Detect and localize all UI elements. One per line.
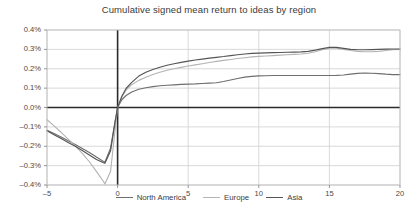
y-axis-label: –0.3% [9,161,41,170]
y-axis-label: –0.4% [9,180,41,189]
plot-area [0,0,418,211]
legend-item-europe[interactable]: Europe [203,193,249,202]
legend-line-swatch [203,197,220,198]
data-series [47,47,400,184]
legend-label: North America [137,193,186,202]
legend-label: Europe [224,193,249,202]
y-axis-label: 0.2% [9,64,41,73]
legend-line-swatch [116,197,133,198]
y-axis-label: 0.4% [9,25,41,34]
y-axis-label: –0.1% [9,122,41,131]
y-axis-label: 0.0% [9,103,41,112]
chart-container: Cumulative signed mean return to ideas b… [0,0,418,211]
series-line-north-america [47,73,400,162]
legend-line-swatch [266,197,283,198]
legend-label: Asia [287,193,302,202]
chart-legend: North AmericaEuropeAsia [0,193,418,202]
y-axis-label: 0.3% [9,44,41,53]
y-axis-label: –0.2% [9,141,41,150]
plot-frame [44,30,400,188]
legend-item-north-america[interactable]: North America [116,193,186,202]
chart-svg [0,0,418,211]
axis-lines [47,30,400,185]
legend-item-asia[interactable]: Asia [266,193,302,202]
y-axis-label: 0.1% [9,83,41,92]
